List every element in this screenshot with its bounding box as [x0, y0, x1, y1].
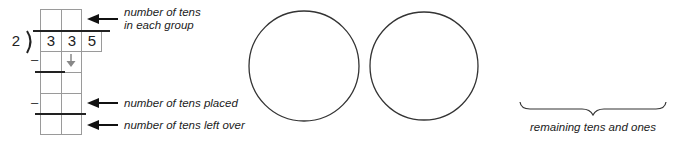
dividend-digit-hundreds: 3 — [41, 31, 61, 51]
subtraction-bar-2 — [35, 113, 86, 115]
quotient-cell-tens-2 — [61, 9, 82, 31]
subtraction-bar-1 — [35, 71, 65, 73]
minus-sign-2: – — [31, 95, 38, 110]
group-circles — [240, 0, 500, 144]
tens-left-over-cell — [40, 114, 62, 135]
work-cell — [40, 51, 62, 73]
remaining-label: remaining tens and ones — [530, 120, 656, 134]
divisor: 2 — [8, 31, 24, 51]
minus-sign-1: – — [31, 52, 38, 67]
quotient-cell-tens-1 — [40, 9, 62, 31]
dividend-digit-ones: 5 — [82, 31, 102, 51]
tens-left-over-cell — [61, 114, 82, 135]
group-circle-2 — [370, 12, 478, 120]
work-cell — [40, 72, 62, 94]
bring-down-arrow-icon — [65, 53, 77, 69]
group-circle-1 — [249, 11, 359, 121]
work-cell — [61, 72, 82, 94]
tens-placed-cell — [40, 93, 62, 115]
dividend-digit-tens: 3 — [62, 31, 82, 51]
remaining-brace-icon — [518, 100, 668, 116]
tens-placed-cell — [61, 93, 82, 115]
